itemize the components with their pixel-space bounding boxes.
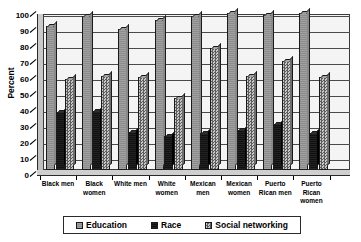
legend-item-social-networking[interactable]: Social networking bbox=[205, 220, 288, 230]
bar-education-8 bbox=[299, 13, 308, 170]
bar-social-networking-6 bbox=[246, 76, 255, 170]
plot-floor bbox=[37, 170, 350, 176]
bar-side-face bbox=[73, 74, 76, 166]
y-axis-tick-label: 60 bbox=[0, 75, 29, 84]
y-axis-tick bbox=[30, 91, 37, 97]
bar-social-networking-4 bbox=[174, 98, 183, 170]
chart-legend: EducationRaceSocial networking bbox=[63, 216, 301, 234]
bar-race-2 bbox=[92, 111, 101, 170]
bar-side-face bbox=[254, 71, 257, 166]
x-axis-label-2: Black women bbox=[76, 180, 112, 197]
social-networking-swatch bbox=[205, 222, 212, 229]
y-axis-tick-label: 10 bbox=[0, 155, 29, 164]
bar-side-face bbox=[182, 93, 185, 166]
x-axis-label-1: Black men bbox=[40, 180, 76, 189]
y-axis-tick bbox=[30, 107, 37, 113]
y-axis-tick-label: 80 bbox=[0, 43, 29, 52]
bar-social-networking-3 bbox=[138, 77, 147, 170]
y-axis-tick bbox=[30, 75, 37, 81]
y-axis-tick bbox=[30, 139, 37, 145]
bar-education-5 bbox=[191, 16, 200, 170]
education-swatch bbox=[76, 222, 83, 229]
legend-item-label: Social networking bbox=[215, 220, 288, 230]
x-axis-labels: Black menBlack womenWhite menWhite women… bbox=[37, 180, 350, 214]
bar-side-face bbox=[109, 71, 112, 166]
y-axis-tick bbox=[30, 11, 37, 17]
bar-education-6 bbox=[227, 13, 236, 170]
x-axis-label-6: Mexican women bbox=[221, 180, 257, 197]
bar-social-networking-8 bbox=[319, 77, 328, 170]
x-axis-label-8: Puerto Rican women bbox=[293, 180, 329, 206]
race-swatch bbox=[151, 222, 158, 229]
bar-social-networking-5 bbox=[210, 48, 219, 170]
legend-item-label: Race bbox=[161, 220, 181, 230]
bar-race-6 bbox=[237, 130, 246, 170]
bar-education-7 bbox=[263, 15, 272, 170]
bar-side-face bbox=[218, 43, 221, 166]
y-axis-tick-label: 20 bbox=[0, 139, 29, 148]
y-axis-tick bbox=[30, 43, 37, 49]
bar-side-face bbox=[290, 56, 293, 166]
bar-education-2 bbox=[82, 16, 91, 170]
bar-side-face bbox=[146, 72, 149, 166]
x-axis-label-7: Puerto Rican men bbox=[257, 180, 293, 197]
y-axis-tick bbox=[30, 155, 37, 161]
y-axis-tick bbox=[30, 171, 37, 177]
bar-race-7 bbox=[273, 124, 282, 170]
x-axis-label-4: White women bbox=[149, 180, 185, 197]
bar-race-5 bbox=[200, 133, 209, 170]
legend-item-education[interactable]: Education bbox=[76, 220, 127, 230]
legend-item-race[interactable]: Race bbox=[151, 220, 181, 230]
y-axis-tick-label: 0 bbox=[0, 171, 29, 180]
bar-race-8 bbox=[309, 133, 318, 170]
legend-item-label: Education bbox=[86, 220, 127, 230]
bar-education-1 bbox=[46, 26, 55, 170]
bar-social-networking-2 bbox=[101, 76, 110, 170]
y-axis-tick-label: 40 bbox=[0, 107, 29, 116]
y-axis-tick bbox=[30, 123, 37, 129]
y-axis-tick bbox=[30, 59, 37, 65]
bar-race-3 bbox=[128, 132, 137, 170]
bar-social-networking-1 bbox=[65, 79, 74, 170]
x-axis-label-3: White men bbox=[112, 180, 148, 189]
bar-race-4 bbox=[164, 136, 173, 170]
y-axis-tick-label: 100 bbox=[0, 11, 29, 20]
bar-education-4 bbox=[155, 20, 164, 170]
y-axis-tick-label: 90 bbox=[0, 27, 29, 36]
bar-education-3 bbox=[118, 29, 127, 170]
bar-race-1 bbox=[56, 112, 65, 170]
plot-area bbox=[37, 14, 350, 176]
bar-social-networking-7 bbox=[282, 61, 291, 170]
y-axis-tick bbox=[30, 27, 37, 33]
y-axis-tick-label: 50 bbox=[0, 91, 29, 100]
bar-side-face bbox=[327, 72, 330, 166]
y-axis-tick-label: 70 bbox=[0, 59, 29, 68]
bar-chart: Percent 0102030405060708090100 Black men… bbox=[0, 0, 361, 242]
y-axis-tick-label: 30 bbox=[0, 123, 29, 132]
x-axis-label-5: Mexican men bbox=[185, 180, 221, 197]
